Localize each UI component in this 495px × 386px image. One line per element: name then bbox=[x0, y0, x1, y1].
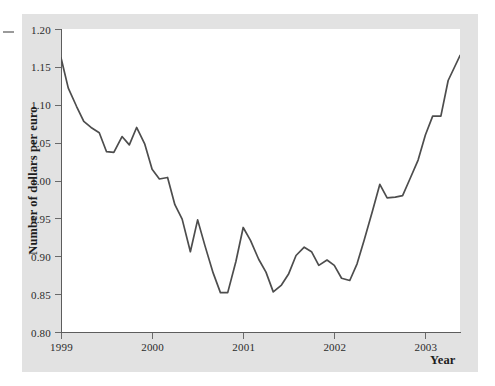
x-tick: 2002 bbox=[334, 333, 335, 339]
edge-dash-mark bbox=[3, 31, 14, 33]
x-tick: 2003 bbox=[425, 333, 426, 339]
x-tick-label: 2000 bbox=[141, 341, 164, 353]
data-series-line bbox=[61, 29, 460, 332]
x-axis-title: Year bbox=[430, 353, 455, 368]
x-tick-label: 2002 bbox=[323, 341, 346, 353]
x-tick: 1999 bbox=[61, 333, 62, 339]
x-tick: 2000 bbox=[152, 333, 153, 339]
x-tick-label: 2003 bbox=[414, 341, 437, 353]
x-tick: 2001 bbox=[243, 333, 244, 339]
figure-container: 0.800.850.900.951.001.051.101.151.20 199… bbox=[0, 0, 495, 386]
y-axis-title: Number of dollars per euro bbox=[26, 29, 42, 332]
x-tick-label: 2001 bbox=[232, 341, 255, 353]
x-tick-label: 1999 bbox=[50, 341, 73, 353]
x-axis-line bbox=[61, 332, 461, 333]
